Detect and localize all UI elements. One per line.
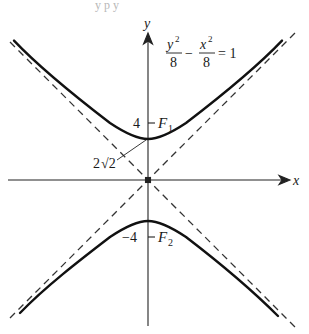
axes (8, 33, 290, 326)
eq-minus: − (185, 46, 193, 61)
vertex-label-radical: √2 (101, 156, 116, 171)
vertex-label-coef: 2 (93, 156, 100, 171)
origin-marker (146, 178, 151, 183)
eq-numerator-left: y (165, 37, 174, 52)
equation: y 2 8 − x 2 8 = 1 (165, 34, 236, 70)
y-axis-label: y (142, 16, 151, 31)
eq-exp-right: 2 (208, 34, 213, 44)
focus-lower-sub: 2 (168, 237, 173, 248)
asymptote-y-equals-x (10, 32, 296, 318)
focus-upper-name: F (157, 115, 168, 131)
focus-lower-name: F (157, 229, 168, 245)
hyperbola-lower-branch (20, 221, 278, 316)
focus-upper-value: 4 (133, 116, 140, 131)
focus-lower-value: −4 (122, 230, 137, 245)
asymptote-y-equals-neg-x (10, 42, 296, 328)
eq-denominator-right: 8 (203, 55, 210, 70)
x-axis-label: x (292, 173, 300, 188)
eq-exp-left: 2 (175, 34, 180, 44)
top-caption-fragment: y p y (95, 0, 119, 12)
eq-equals-one: = 1 (218, 46, 236, 61)
eq-numerator-right: x (199, 37, 207, 52)
hyperbola-diagram: y p y y x 4 F 1 −4 F 2 2 √2 y 2 8 − x (0, 0, 309, 334)
eq-denominator-left: 8 (170, 55, 177, 70)
focus-upper-sub: 1 (168, 123, 173, 134)
vertex-leader-line (117, 140, 146, 160)
